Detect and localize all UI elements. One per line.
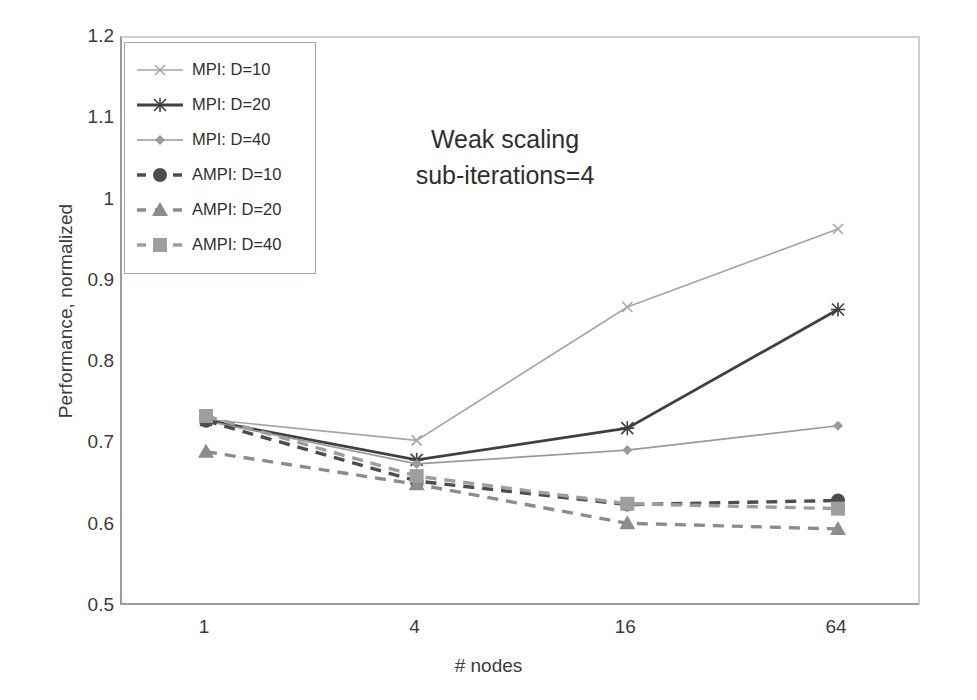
data-point <box>620 497 634 511</box>
series-line <box>206 421 838 505</box>
legend-label: AMPI: D=20 <box>192 200 281 219</box>
legend-item-mpi-d-40[interactable]: MPI: D=40 <box>125 122 315 157</box>
y-tick-label: 0.6 <box>88 513 114 535</box>
y-tick-label: 1 <box>103 188 114 210</box>
legend-label: AMPI: D=40 <box>192 235 281 254</box>
series-ampi-d-40 <box>199 409 845 516</box>
legend-label: MPI: D=20 <box>192 95 270 114</box>
legend-label: MPI: D=40 <box>192 130 270 149</box>
data-point <box>199 409 213 423</box>
data-point <box>410 469 424 483</box>
data-point <box>833 224 843 234</box>
data-point <box>622 302 632 312</box>
legend-label: AMPI: D=10 <box>192 165 281 184</box>
legend-item-ampi-d-40[interactable]: AMPI: D=40 <box>125 227 315 262</box>
legend-marker-circle-icon <box>135 166 185 184</box>
legend-item-ampi-d-20[interactable]: AMPI: D=20 <box>125 192 315 227</box>
data-point <box>620 421 634 435</box>
chart-annotation: Weak scaling sub-iterations=4 <box>345 122 665 193</box>
annotation-line-2: sub-iterations=4 <box>345 158 665 194</box>
legend-item-mpi-d-20[interactable]: MPI: D=20 <box>125 87 315 122</box>
data-point <box>622 445 632 455</box>
y-tick-label: 1.2 <box>88 25 114 47</box>
legend-marker-triangle-icon <box>135 201 185 219</box>
y-axis-tick-labels: 0.50.60.70.80.911.11.2 <box>56 0 114 700</box>
legend-marker-diamond-icon <box>135 131 185 149</box>
legend-marker-star-icon <box>135 96 185 114</box>
y-tick-label: 0.8 <box>88 350 114 372</box>
x-axis-title: # nodes <box>0 655 977 677</box>
legend-marker-square-icon <box>135 236 185 254</box>
x-tick-label: 4 <box>409 616 420 638</box>
y-tick-label: 0.5 <box>88 594 114 616</box>
data-point <box>833 421 843 431</box>
legend-item-mpi-d-10[interactable]: MPI: D=10 <box>125 52 315 87</box>
data-point <box>831 502 845 516</box>
x-tick-label: 1 <box>199 616 210 638</box>
chart-legend: MPI: D=10MPI: D=20MPI: D=40AMPI: D=10AMP… <box>124 42 316 274</box>
y-tick-label: 0.9 <box>88 269 114 291</box>
legend-label: MPI: D=10 <box>192 60 270 79</box>
y-tick-label: 1.1 <box>88 106 114 128</box>
legend-marker-x-icon <box>135 61 185 79</box>
series-line <box>206 416 838 509</box>
series-mpi-d-20 <box>199 302 845 466</box>
x-tick-label: 64 <box>825 616 846 638</box>
legend-item-ampi-d-10[interactable]: AMPI: D=10 <box>125 157 315 192</box>
x-axis-tick-labels: 141664 <box>0 616 977 646</box>
data-point <box>198 444 214 458</box>
chart-container: Performance, normalized 0.50.60.70.80.91… <box>0 0 977 700</box>
y-tick-label: 0.7 <box>88 431 114 453</box>
annotation-line-1: Weak scaling <box>345 122 665 158</box>
x-tick-label: 16 <box>615 616 636 638</box>
data-point <box>831 302 845 316</box>
